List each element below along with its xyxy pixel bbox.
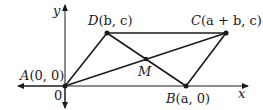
label-b-coords: (a, 0) bbox=[176, 91, 210, 106]
side-ad bbox=[65, 33, 107, 86]
label-b-name: B bbox=[165, 91, 176, 106]
label-d-coords: (b, c) bbox=[98, 13, 132, 28]
label-d: D(b, c) bbox=[87, 13, 132, 28]
side-cb bbox=[186, 33, 226, 86]
label-a-coords: (0, 0) bbox=[29, 68, 64, 83]
x-axis-label: x bbox=[238, 86, 246, 101]
point-d bbox=[105, 31, 110, 36]
label-c: C(a + b, c) bbox=[191, 13, 262, 28]
y-axis-label: y bbox=[52, 3, 61, 18]
origin-label: 0 bbox=[54, 88, 62, 103]
label-b: B(a, 0) bbox=[165, 91, 210, 106]
point-m bbox=[144, 57, 148, 61]
label-d-name: D bbox=[87, 13, 99, 28]
point-b bbox=[184, 84, 189, 89]
point-a bbox=[63, 84, 68, 89]
label-c-name: C bbox=[191, 13, 201, 28]
vertices bbox=[63, 31, 229, 89]
parallelogram-diagram: y x 0 A(0, 0) B(a, 0) C(a + b, c) D(b, c… bbox=[0, 0, 263, 110]
label-m: M bbox=[137, 64, 152, 79]
label-a: A(0, 0) bbox=[19, 68, 64, 83]
label-a-name: A bbox=[19, 68, 29, 83]
point-c bbox=[224, 31, 229, 36]
label-c-coords: (a + b, c) bbox=[201, 13, 262, 28]
